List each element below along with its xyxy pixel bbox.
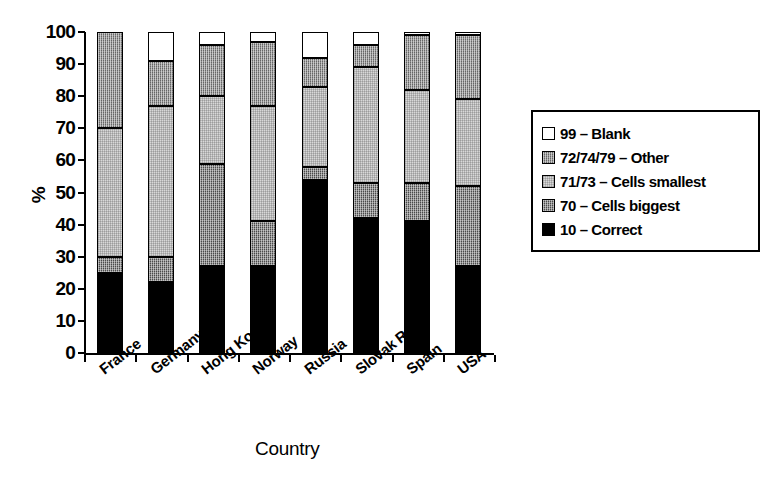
bar-segment-other (353, 45, 379, 67)
bar-segment-cells_smallest (353, 67, 379, 183)
bar-segment-correct (97, 273, 123, 353)
stacked-bar-chart: % 0102030405060708090100 FranceGermanyHo… (0, 0, 778, 479)
chart-legend: 99 – Blank72/74/79 – Other71/73 – Cells … (531, 110, 760, 252)
x-tick-mark-8 (494, 355, 496, 362)
y-tick-label-50: 50 (33, 183, 75, 202)
x-tick-mark-4 (289, 355, 291, 362)
bar-segment-correct (148, 282, 174, 353)
bar-segment-other (148, 61, 174, 106)
x-tick-mark-2 (187, 355, 189, 362)
x-tick-mark-5 (340, 355, 342, 362)
bar-segment-other (404, 35, 430, 90)
bar-segment-other (302, 58, 328, 87)
bar-segment-other (250, 42, 276, 106)
bar-segment-cells_biggest (97, 257, 123, 273)
bar-segment-blank (199, 32, 225, 45)
bar-segment-cells_smallest (302, 87, 328, 167)
bar-usa (455, 32, 481, 353)
bar-segment-cells_smallest (404, 90, 430, 183)
x-tick-mark-6 (392, 355, 394, 362)
bar-segment-other (97, 32, 123, 128)
y-tick-label-30: 30 (33, 247, 75, 266)
legend-item: 72/74/79 – Other (542, 145, 750, 169)
y-tick-label-0: 0 (33, 343, 75, 362)
bar-segment-cells_biggest (404, 183, 430, 222)
bar-segment-cells_smallest (148, 106, 174, 257)
x-tick-mark-3 (238, 355, 240, 362)
y-tick-label-40: 40 (33, 215, 75, 234)
legend-swatch-icon (542, 199, 555, 212)
y-tick-label-80: 80 (33, 86, 75, 105)
x-tick-mark-0 (84, 355, 86, 362)
bar-segment-blank (250, 32, 276, 42)
bar-segment-cells_smallest (199, 96, 225, 163)
legend-swatch-icon (542, 127, 555, 140)
bar-segment-correct (302, 180, 328, 353)
bar-segment-blank (302, 32, 328, 58)
bar-slovak-rep (353, 32, 379, 353)
legend-item-label: 10 – Correct (560, 221, 642, 238)
bar-segment-cells_biggest (455, 186, 481, 266)
y-tick-label-90: 90 (33, 54, 75, 73)
bar-segment-blank (455, 32, 481, 35)
legend-item-label: 70 – Cells biggest (560, 197, 680, 214)
legend-swatch-icon (542, 223, 555, 236)
legend-item: 99 – Blank (542, 121, 750, 145)
legend-item: 10 – Correct (542, 217, 750, 241)
legend-swatch-icon (542, 151, 555, 164)
legend-item-label: 72/74/79 – Other (560, 149, 669, 166)
bar-segment-cells_smallest (97, 128, 123, 256)
y-tick-label-20: 20 (33, 279, 75, 298)
bar-germany (148, 32, 174, 353)
y-axis-tick-labels: 0102030405060708090100 (30, 0, 75, 479)
bar-segment-correct (353, 218, 379, 353)
bar-segment-other (455, 35, 481, 99)
legend-swatch-icon (542, 175, 555, 188)
y-tick-label-70: 70 (33, 118, 75, 137)
bar-segment-cells_biggest (148, 257, 174, 283)
bar-segment-correct (455, 266, 481, 353)
x-tick-mark-7 (443, 355, 445, 362)
legend-item: 71/73 – Cells smallest (542, 169, 750, 193)
bar-russia (302, 32, 328, 353)
y-tick-label-100: 100 (33, 22, 75, 41)
legend-item-label: 71/73 – Cells smallest (560, 173, 705, 190)
y-tick-label-10: 10 (33, 311, 75, 330)
bar-segment-cells_biggest (199, 164, 225, 267)
bar-segment-other (199, 45, 225, 96)
x-axis-title: Country (255, 438, 319, 460)
legend-item-label: 99 – Blank (560, 125, 630, 142)
bar-segment-cells_smallest (455, 99, 481, 186)
bar-spain (404, 32, 430, 353)
bar-segment-cells_smallest (250, 106, 276, 222)
bar-hong-kong (199, 32, 225, 353)
x-tick-mark-1 (135, 355, 137, 362)
plot-area (84, 32, 494, 353)
y-tick-label-60: 60 (33, 150, 75, 169)
bar-segment-cells_biggest (302, 167, 328, 180)
bar-norway (250, 32, 276, 353)
bar-france (97, 32, 123, 353)
bar-segment-blank (404, 32, 430, 35)
bar-segment-cells_biggest (353, 183, 379, 218)
bar-segment-blank (353, 32, 379, 45)
legend-item: 70 – Cells biggest (542, 193, 750, 217)
bar-segment-cells_biggest (250, 221, 276, 266)
bar-segment-blank (148, 32, 174, 61)
